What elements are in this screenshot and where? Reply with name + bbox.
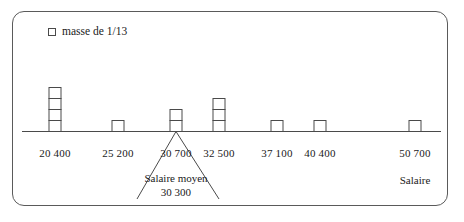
mass-block bbox=[112, 121, 124, 132]
bar-series bbox=[49, 88, 421, 132]
x-axis-tick-label: 50 700 bbox=[399, 148, 430, 159]
x-axis-tick-label: 37 100 bbox=[261, 148, 292, 159]
mass-block bbox=[409, 121, 421, 132]
x-axis-tick-label: 40 400 bbox=[304, 148, 335, 159]
mass-block bbox=[314, 121, 326, 132]
mass-block bbox=[170, 121, 182, 132]
plot-area bbox=[0, 0, 464, 222]
mass-block bbox=[49, 110, 61, 121]
mass-block bbox=[49, 88, 61, 99]
mass-block bbox=[213, 121, 225, 132]
mass-block bbox=[49, 99, 61, 110]
mean-salary-annotation: Salaire moyen 30 300 bbox=[144, 172, 207, 200]
bar-stack bbox=[170, 110, 182, 132]
bar-stack bbox=[112, 121, 124, 132]
bar-stack bbox=[409, 121, 421, 132]
mass-block bbox=[271, 121, 283, 132]
mass-block bbox=[213, 99, 225, 110]
bar-stack bbox=[213, 99, 225, 132]
x-axis-tick-label: 25 200 bbox=[102, 148, 133, 159]
x-axis-tick-label: 30 700 bbox=[160, 148, 191, 159]
mass-block bbox=[213, 110, 225, 121]
bar-stack bbox=[314, 121, 326, 132]
mass-block bbox=[170, 110, 182, 121]
bar-stack bbox=[271, 121, 283, 132]
mean-salary-annotation-line1: Salaire moyen bbox=[144, 172, 207, 186]
x-axis-title: Salaire bbox=[400, 175, 431, 186]
x-axis-tick-label: 20 400 bbox=[39, 148, 70, 159]
mean-salary-annotation-line2: 30 300 bbox=[144, 186, 207, 200]
x-axis-tick-label: 32 500 bbox=[203, 148, 234, 159]
salary-distribution-figure: masse de 1/13 20 40025 20030 70032 50037… bbox=[0, 0, 464, 222]
mass-block bbox=[49, 121, 61, 132]
bar-stack bbox=[49, 88, 61, 132]
